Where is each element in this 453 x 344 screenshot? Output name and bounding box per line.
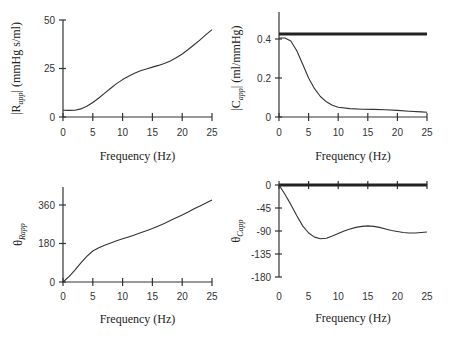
x-tick-label: 10 xyxy=(333,291,345,302)
x-tick-label: 5 xyxy=(90,291,96,302)
data-curve xyxy=(279,38,427,112)
y-tick-label: -90 xyxy=(257,226,272,237)
y-tick-label: 0.2 xyxy=(257,73,271,84)
y-tick-label: 180 xyxy=(38,238,55,249)
y-axis-label: |Capp| (ml/mmHg) xyxy=(229,25,245,110)
y-tick-label: 50 xyxy=(44,15,56,26)
x-tick-label: 20 xyxy=(392,291,404,302)
x-tick-label: 0 xyxy=(276,291,282,302)
x-tick-label: 10 xyxy=(117,291,129,302)
x-axis-label: Frequency (Hz) xyxy=(100,312,176,326)
x-tick-label: 5 xyxy=(306,291,312,302)
x-tick-label: 15 xyxy=(147,291,159,302)
x-axis-label: Frequency (Hz) xyxy=(100,149,176,163)
data-curve xyxy=(63,200,212,282)
data-curve xyxy=(279,185,427,239)
x-tick-label: 15 xyxy=(147,127,159,138)
y-tick-label: 0 xyxy=(265,180,271,191)
y-tick-label: 0 xyxy=(49,277,55,288)
y-tick-label: 0 xyxy=(265,112,271,123)
x-tick-label: 10 xyxy=(117,127,129,138)
x-axis-label: Frequency (Hz) xyxy=(315,149,391,163)
figure: 051015202502550Frequency (Hz)|Rapp| (mmH… xyxy=(0,0,453,344)
x-tick-label: 20 xyxy=(177,127,189,138)
x-tick-label: 5 xyxy=(306,127,312,138)
y-tick-label: 360 xyxy=(38,200,55,211)
x-tick-label: 20 xyxy=(392,127,404,138)
x-tick-label: 0 xyxy=(60,127,66,138)
x-tick-label: 15 xyxy=(362,291,374,302)
y-axis-label: θCapp xyxy=(229,219,245,242)
x-tick-label: 20 xyxy=(177,291,189,302)
x-tick-label: 0 xyxy=(60,291,66,302)
y-tick-label: -180 xyxy=(251,272,271,283)
y-axis-label: θRapp xyxy=(11,223,27,246)
x-tick-label: 10 xyxy=(333,127,345,138)
y-tick-label: -45 xyxy=(257,203,272,214)
y-tick-label: -135 xyxy=(251,249,271,260)
x-tick-label: 15 xyxy=(362,127,374,138)
x-tick-label: 25 xyxy=(206,127,218,138)
x-tick-label: 25 xyxy=(421,127,433,138)
x-tick-label: 25 xyxy=(421,291,433,302)
y-axis-label: |Rapp| (mmHg s/ml) xyxy=(9,22,25,115)
y-tick-label: 0.4 xyxy=(257,34,271,45)
x-tick-label: 0 xyxy=(276,127,282,138)
y-tick-label: 25 xyxy=(44,63,56,74)
x-axis-label: Frequency (Hz) xyxy=(315,311,391,325)
x-tick-label: 5 xyxy=(90,127,96,138)
y-tick-label: 0 xyxy=(49,112,55,123)
data-curve xyxy=(63,30,212,111)
x-tick-label: 25 xyxy=(206,291,218,302)
